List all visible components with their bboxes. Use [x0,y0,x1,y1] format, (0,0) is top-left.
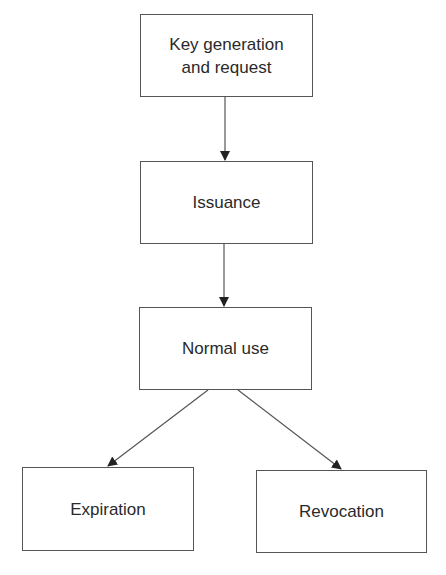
node-expiration: Expiration [22,467,194,551]
node-normal-use: Normal use [139,307,312,390]
node-normal-use-label: Normal use [182,337,269,360]
node-expiration-label: Expiration [70,498,146,521]
node-issuance-label: Issuance [192,191,260,214]
label-line-2: and request [169,56,283,79]
arrow-normal-use-to-expiration [108,390,208,466]
node-revocation: Revocation [256,470,427,553]
arrow-normal-use-to-revocation [238,390,341,469]
node-key-generation: Key generation and request [140,14,313,97]
node-issuance: Issuance [140,161,313,244]
label-line-1: Key generation [169,33,283,56]
node-key-generation-label: Key generation and request [169,33,283,79]
node-revocation-label: Revocation [299,500,384,523]
